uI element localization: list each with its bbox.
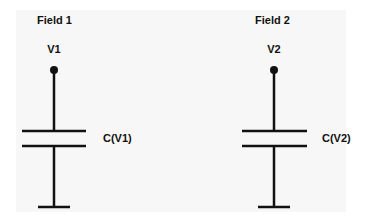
node-label-v2: V2 xyxy=(267,43,280,55)
capacitor-label-v1: C(V1) xyxy=(103,132,132,144)
field-title-1: Field 1 xyxy=(37,14,72,26)
capacitor-label-v2: C(V2) xyxy=(322,132,351,144)
node-label-v1: V1 xyxy=(47,43,60,55)
schematic-drawing xyxy=(0,0,365,224)
field-title-2: Field 2 xyxy=(255,14,290,26)
circuit-field-1 xyxy=(22,66,86,207)
circuit-field-2 xyxy=(242,66,307,207)
